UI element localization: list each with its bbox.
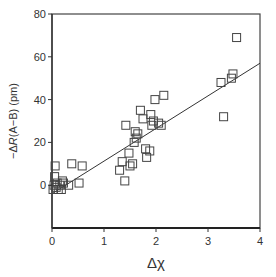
y-axis-ticks: 020406080	[34, 8, 52, 191]
data-point-marker	[122, 121, 130, 129]
data-point-marker	[139, 115, 147, 123]
data-point-marker	[217, 78, 225, 86]
y-tick-label: 0	[40, 179, 46, 191]
x-tick-label: 1	[101, 235, 107, 247]
y-tick-label: 40	[34, 94, 46, 106]
y-label-suffix: (A−B) (pm)	[7, 83, 19, 137]
data-point-marker	[151, 96, 159, 104]
x-axis-ticks: 01234	[49, 228, 263, 247]
x-tick-label: 0	[49, 235, 55, 247]
data-point-marker	[136, 106, 144, 114]
y-axis-label: −ΔR(A−B) (pm)	[7, 83, 19, 159]
y-tick-label: 60	[34, 51, 46, 63]
data-point-marker	[126, 162, 134, 170]
data-point-marker	[116, 166, 124, 174]
y-label-prefix: −Δ	[7, 144, 19, 158]
data-point-marker	[68, 160, 76, 168]
data-points	[49, 34, 241, 194]
x-tick-label: 3	[205, 235, 211, 247]
y-tick-label: 80	[34, 8, 46, 20]
x-tick-label: 2	[153, 235, 159, 247]
data-point-marker	[220, 113, 228, 121]
y-label-italic: R	[7, 137, 19, 145]
scatter-chart: 01234 020406080 Δχ −ΔR(A−B) (pm)	[0, 0, 276, 277]
y-tick-label: 20	[34, 136, 46, 148]
data-point-marker	[121, 177, 129, 185]
data-point-marker	[125, 149, 133, 157]
data-point-marker	[160, 91, 168, 99]
data-point-marker	[78, 162, 86, 170]
data-point-marker	[233, 34, 241, 42]
data-point-marker	[118, 158, 126, 166]
x-tick-label: 4	[257, 235, 263, 247]
data-point-marker	[75, 179, 83, 187]
x-axis-label: Δχ	[147, 254, 165, 271]
data-point-marker	[129, 160, 137, 168]
